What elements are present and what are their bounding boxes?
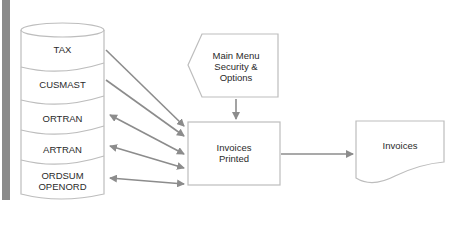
process-line2: Printed	[188, 153, 280, 164]
db-segment-tax: TAX	[21, 44, 104, 55]
db-segment-ortran: ORTRAN	[21, 113, 104, 124]
db-segment-ordsum: ORDSUM	[21, 170, 104, 181]
process-line1: Invoices	[188, 142, 280, 153]
output-document-label: Invoices	[356, 140, 444, 151]
arrow-artran	[110, 146, 184, 168]
invoices-document-shape	[356, 121, 444, 183]
arrow-ordsum	[110, 178, 184, 184]
main-menu-line1: Main Menu	[196, 50, 276, 61]
main-menu-line2: Security &	[196, 61, 276, 72]
main-menu-line3: Options	[196, 72, 276, 83]
db-segment-openord: OPENORD	[21, 181, 104, 192]
db-segment-cusmast: CUSMAST	[21, 79, 104, 90]
arrow-ortran	[110, 115, 184, 154]
db-segment-artran: ARTRAN	[21, 144, 104, 155]
